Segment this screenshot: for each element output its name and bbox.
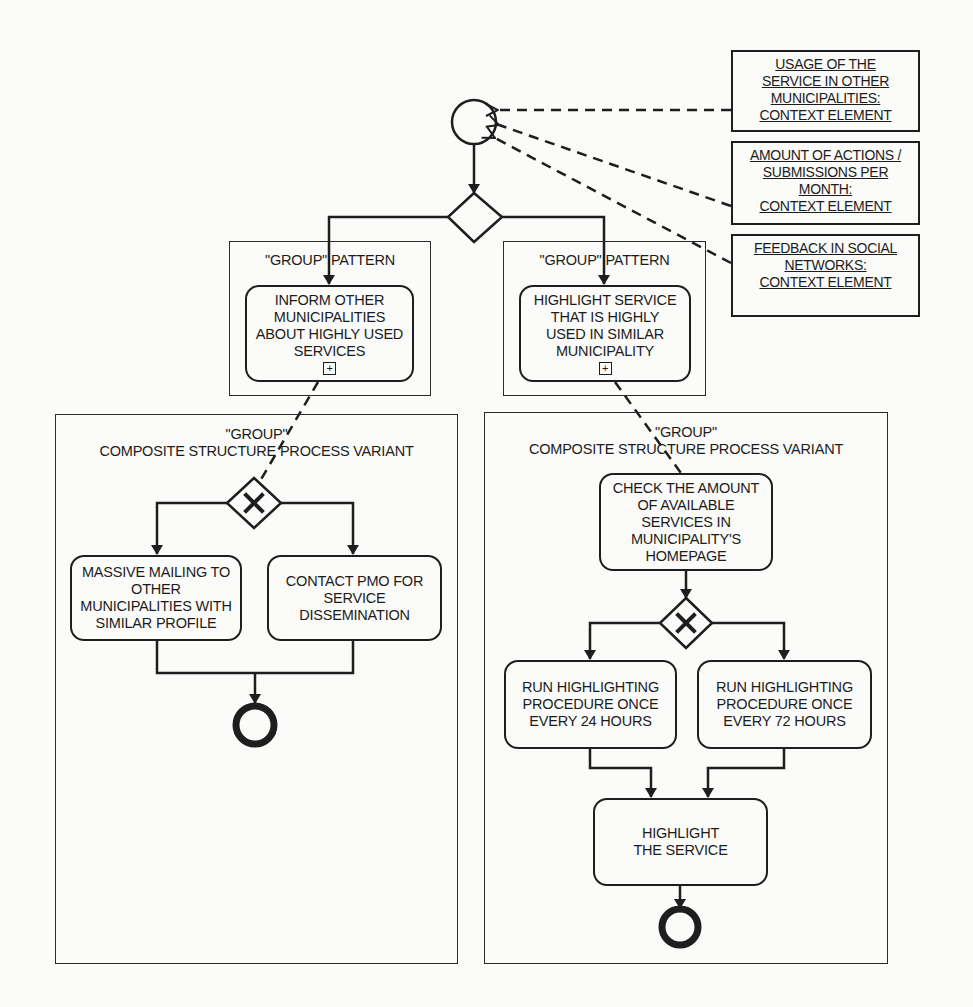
task-highlight-similar-service[interactable]: HIGHLIGHT SERVICE THAT IS HIGHLY USED IN…: [519, 285, 691, 382]
task-inform-municipalities[interactable]: INFORM OTHER MUNICIPALITIES ABOUT HIGHLY…: [245, 285, 414, 382]
right-variant-label-2: COMPOSITE STRUCTURE PROCESS VARIANT: [484, 441, 888, 458]
right-variant-label-1: "GROUP": [484, 424, 888, 441]
task-contact-pmo[interactable]: CONTACT PMO FOR SERVICE DISSEMINATION: [267, 555, 442, 641]
left-composite-variant: [55, 414, 458, 964]
task-highlight-the-service[interactable]: HIGHLIGHT THE SERVICE: [593, 798, 768, 886]
task-check-available-services[interactable]: CHECK THE AMOUNT OF AVAILABLE SERVICES I…: [599, 473, 773, 571]
subprocess-expand-icon[interactable]: +: [599, 362, 612, 375]
left-variant-label-2: COMPOSITE STRUCTURE PROCESS VARIANT: [55, 443, 458, 460]
task-massive-mailing[interactable]: MASSIVE MAILING TO OTHER MUNICIPALITIES …: [70, 555, 242, 641]
context-element-social-feedback: FEEDBACK IN SOCIAL NETWORKS: CONTEXT ELE…: [731, 234, 920, 317]
main-gateway: [448, 193, 502, 242]
left-group-pattern-label: "GROUP" PATTERN: [229, 252, 431, 269]
context-element-submissions: AMOUNT OF ACTIONS / SUBMISSIONS PER MONT…: [731, 141, 920, 225]
start-event: [452, 100, 496, 144]
context-element-usage: USAGE OF THE SERVICE IN OTHER MUNICIPALI…: [731, 50, 920, 132]
task-run-highlighting-24h[interactable]: RUN HIGHLIGHTING PROCEDURE ONCE EVERY 24…: [504, 660, 677, 749]
left-variant-label-1: "GROUP": [55, 426, 458, 443]
right-group-pattern-label: "GROUP" PATTERN: [503, 252, 706, 269]
subprocess-expand-icon[interactable]: +: [323, 362, 336, 375]
task-run-highlighting-72h[interactable]: RUN HIGHLIGHTING PROCEDURE ONCE EVERY 72…: [697, 660, 872, 749]
